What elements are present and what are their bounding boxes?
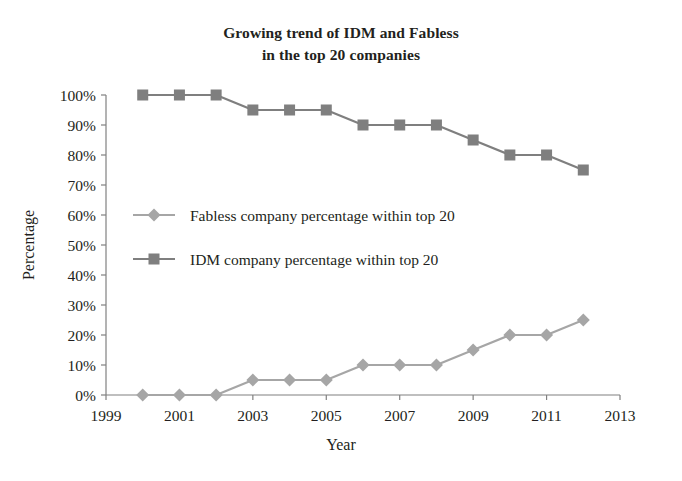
chart-legend: Fabless company percentage within top 20… <box>133 207 455 268</box>
series-marker <box>321 105 332 116</box>
series-marker <box>394 120 405 131</box>
series-marker <box>247 105 258 116</box>
y-tick-label: 20% <box>68 327 97 344</box>
series-marker <box>467 344 480 357</box>
legend-marker <box>149 254 160 265</box>
y-tick-label: 80% <box>68 147 97 164</box>
y-axis-tick-labels: 0%10%20%30%40%50%60%70%80%90%100% <box>60 87 96 404</box>
series-marker <box>431 120 442 131</box>
series-marker <box>578 165 589 176</box>
y-tick-label: 60% <box>68 207 97 224</box>
x-tick-label: 2001 <box>164 407 195 424</box>
series-marker <box>577 314 590 327</box>
plot-area: 0%10%20%30%40%50%60%70%80%90%100% 199920… <box>0 0 682 481</box>
series-lines <box>143 95 584 395</box>
series-marker <box>357 359 370 372</box>
y-tick-label: 10% <box>68 357 97 374</box>
y-tick-label: 50% <box>68 237 97 254</box>
series-marker <box>246 374 259 387</box>
y-tick-label: 0% <box>75 387 96 404</box>
x-tick-label: 2009 <box>458 407 489 424</box>
series-marker <box>430 359 443 372</box>
series-marker <box>358 120 369 131</box>
series-marker <box>541 150 552 161</box>
x-tick-label: 1999 <box>91 407 122 424</box>
y-tick-label: 100% <box>60 87 96 104</box>
series-line <box>143 320 584 395</box>
y-axis-ticks <box>101 95 106 395</box>
chart-figure: Growing trend of IDM and Fabless in the … <box>0 0 682 481</box>
y-tick-label: 30% <box>68 297 97 314</box>
series-marker <box>393 359 406 372</box>
series-marker <box>284 105 295 116</box>
series-marker <box>136 389 149 402</box>
series-marker <box>320 374 333 387</box>
legend-label: IDM company percentage within top 20 <box>190 251 439 268</box>
series-marker <box>468 135 479 146</box>
series-marker <box>174 90 185 101</box>
x-tick-label: 2013 <box>605 407 636 424</box>
series-marker <box>504 150 515 161</box>
series-marker <box>211 90 222 101</box>
x-tick-label: 2005 <box>311 407 342 424</box>
x-tick-label: 2007 <box>384 407 415 424</box>
legend-marker <box>148 209 161 222</box>
legend-label: Fabless company percentage within top 20 <box>190 207 455 224</box>
series-marker <box>137 90 148 101</box>
series-line <box>143 95 584 170</box>
y-tick-label: 40% <box>68 267 97 284</box>
x-tick-label: 2003 <box>237 407 268 424</box>
y-tick-label: 70% <box>68 177 97 194</box>
series-marker <box>283 374 296 387</box>
x-tick-label: 2011 <box>531 407 561 424</box>
x-axis-tick-labels: 19992001200320052007200920112013 <box>91 407 636 424</box>
series-marker <box>173 389 186 402</box>
series-marker <box>210 389 223 402</box>
series-markers <box>136 90 590 402</box>
series-marker <box>540 329 553 342</box>
series-marker <box>503 329 516 342</box>
y-tick-label: 90% <box>68 117 97 134</box>
